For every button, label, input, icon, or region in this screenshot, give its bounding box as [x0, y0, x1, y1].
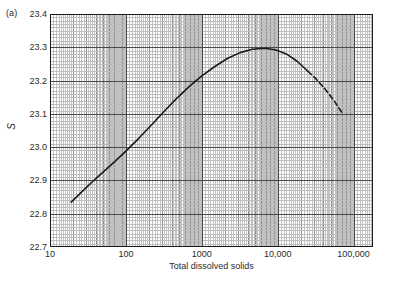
x-tick-label: 1000 [192, 249, 212, 259]
y-tick-label: 23.4 [3, 9, 47, 19]
y-tick-label: 23.0 [3, 142, 47, 152]
y-tick-label: 22.8 [3, 209, 47, 219]
x-tick-label: 100,000 [337, 249, 370, 259]
chart-canvas [50, 14, 373, 247]
y-tick-label: 23.1 [3, 109, 47, 119]
grid-minor-lines [50, 14, 373, 247]
y-tick-label: 22.9 [3, 175, 47, 185]
x-axis-label: Total dissolved solids [50, 261, 373, 271]
x-tick-label: 10 [45, 249, 55, 259]
x-tick-label: 100 [118, 249, 133, 259]
y-tick-label: 22.7 [3, 242, 47, 252]
y-tick-label: 23.2 [3, 76, 47, 86]
y-tick-label: 23.3 [3, 42, 47, 52]
x-tick-label: 10,000 [264, 249, 292, 259]
figure-panel-a: (a) S 22.722.822.923.023.123.223.323.4 1… [0, 0, 393, 282]
y-axis-tick-labels: 22.722.822.923.023.123.223.323.4 [0, 0, 47, 282]
plot-area [50, 14, 373, 247]
